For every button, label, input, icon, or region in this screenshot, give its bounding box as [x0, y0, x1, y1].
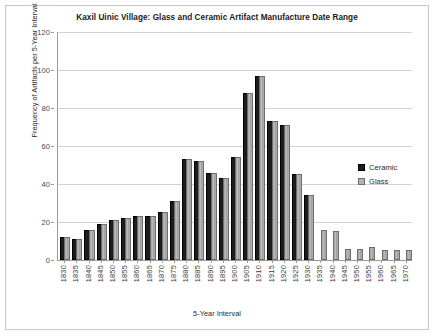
x-tick-mark [101, 260, 102, 263]
y-tick-label: 60 [42, 142, 50, 151]
legend-swatch-glass-icon [358, 178, 365, 185]
x-tick-mark [89, 260, 90, 263]
x-tick-mark [333, 260, 334, 263]
x-tick-label: 1960 [376, 265, 385, 282]
bar-glass-1970 [406, 250, 412, 260]
y-tick-label: 80 [42, 104, 50, 113]
x-tick-label: 1865 [145, 265, 154, 282]
x-tick-mark [320, 260, 321, 263]
bar-group [168, 32, 180, 260]
y-tick-mark [51, 260, 54, 261]
x-tick-label: 1840 [84, 265, 93, 282]
bar-group [241, 32, 253, 260]
x-tick-label: 1955 [364, 265, 373, 282]
bar-group [95, 32, 107, 260]
x-tick-label: 1875 [169, 265, 178, 282]
bar-group [278, 32, 290, 260]
bar-group [70, 32, 82, 260]
x-tick-mark [113, 260, 114, 263]
bar-group [119, 32, 131, 260]
y-tick-label: 40 [42, 180, 50, 189]
bar-group [156, 32, 168, 260]
x-axis-title: 5-Year Interval [6, 309, 428, 318]
x-tick-label: 1940 [328, 265, 337, 282]
bar-group [314, 32, 326, 260]
x-tick-label: 1920 [279, 265, 288, 282]
chart-container: Kaxil Uinic Village: Glass and Ceramic A… [5, 5, 429, 330]
x-tick-mark [284, 260, 285, 263]
x-tick-mark [223, 260, 224, 263]
x-tick-label: 1970 [401, 265, 410, 282]
x-tick-mark [198, 260, 199, 263]
bar-group [388, 32, 400, 260]
bar-group [339, 32, 351, 260]
bar-group [192, 32, 204, 260]
bar-group [217, 32, 229, 260]
bar-group [375, 32, 387, 260]
bar-group [327, 32, 339, 260]
x-tick-mark [211, 260, 212, 263]
bar-group [400, 32, 412, 260]
x-tick-label: 1885 [193, 265, 202, 282]
bar-group [107, 32, 119, 260]
bar-group [131, 32, 143, 260]
x-tick-mark [235, 260, 236, 263]
bar-group [229, 32, 241, 260]
x-tick-label: 1850 [108, 265, 117, 282]
bar-group [302, 32, 314, 260]
y-tick-mark [51, 222, 54, 223]
legend-item-glass[interactable]: Glass [358, 177, 420, 186]
x-tick-label: 1880 [181, 265, 190, 282]
x-tick-mark [406, 260, 407, 263]
x-tick-label: 1905 [242, 265, 251, 282]
x-tick-mark [357, 260, 358, 263]
x-tick-mark [247, 260, 248, 263]
y-tick-mark [51, 184, 54, 185]
x-tick-mark [345, 260, 346, 263]
bar-group [58, 32, 70, 260]
x-tick-label: 1965 [389, 265, 398, 282]
plot-area [57, 32, 412, 261]
bar-group [204, 32, 216, 260]
x-tick-mark [125, 260, 126, 263]
x-tick-mark [394, 260, 395, 263]
x-tick-label: 1845 [96, 265, 105, 282]
y-tick-mark [51, 146, 54, 147]
x-tick-label: 1870 [157, 265, 166, 282]
y-tick-label: 100 [37, 66, 50, 75]
x-tick-label: 1860 [132, 265, 141, 282]
bar-group [363, 32, 375, 260]
y-tick-mark [51, 70, 54, 71]
x-tick-label: 1895 [218, 265, 227, 282]
x-tick-mark [150, 260, 151, 263]
bar-group [180, 32, 192, 260]
x-tick-label: 1900 [230, 265, 239, 282]
y-tick-mark [51, 108, 54, 109]
x-tick-label: 1935 [315, 265, 324, 282]
x-tick-label: 1835 [71, 265, 80, 282]
bar-group [351, 32, 363, 260]
x-tick-label: 1855 [120, 265, 129, 282]
bar-group [143, 32, 155, 260]
x-tick-mark [76, 260, 77, 263]
x-tick-mark [137, 260, 138, 263]
x-tick-mark [259, 260, 260, 263]
x-tick-label: 1915 [267, 265, 276, 282]
x-tick-mark [381, 260, 382, 263]
x-tick-mark [272, 260, 273, 263]
x-tick-mark [186, 260, 187, 263]
x-tick-mark [64, 260, 65, 263]
x-tick-mark [369, 260, 370, 263]
legend-label: Ceramic [369, 163, 397, 172]
x-tick-label: 1910 [254, 265, 263, 282]
y-tick-label: 20 [42, 218, 50, 227]
x-tick-mark [296, 260, 297, 263]
y-axis-tick-labels: 020406080100120 [24, 32, 54, 261]
x-tick-label: 1890 [206, 265, 215, 282]
bar-group [290, 32, 302, 260]
legend-item-ceramic[interactable]: Ceramic [358, 163, 420, 172]
y-tick-mark [51, 32, 54, 33]
legend-swatch-ceramic-icon [358, 164, 365, 171]
chart-title: Kaxil Uinic Village: Glass and Ceramic A… [6, 13, 428, 22]
x-tick-label: 1945 [340, 265, 349, 282]
